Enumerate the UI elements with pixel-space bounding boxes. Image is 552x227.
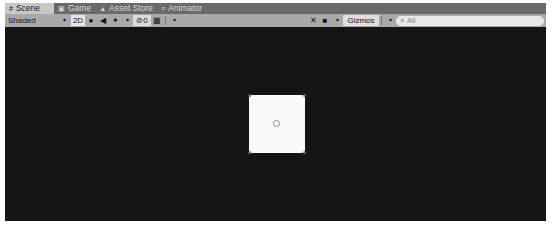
tab-scene-label: Scene bbox=[16, 3, 40, 14]
divider bbox=[381, 16, 382, 25]
speaker-icon: ◀ bbox=[100, 15, 106, 26]
scene-toolbar: Shaded ▾ 2D ● ◀ ✦ ▾ ⊘ 0 ▦ ▾ ✕ ■ ▾ Gizmos… bbox=[5, 14, 546, 27]
divider bbox=[165, 16, 166, 25]
lighting-toggle[interactable]: ● bbox=[85, 15, 97, 26]
hidden-objects-toggle[interactable]: ⊘ 0 bbox=[133, 15, 151, 26]
tab-animator[interactable]: ≡ Animator bbox=[157, 3, 206, 14]
animator-icon: ≡ bbox=[161, 3, 165, 14]
effects-toggle[interactable]: ✦ bbox=[109, 15, 121, 26]
bounds-handle[interactable] bbox=[248, 151, 251, 154]
chevron-down-icon: ▾ bbox=[173, 15, 176, 26]
tab-animator-label: Animator bbox=[168, 3, 202, 14]
draw-mode-label: Shaded bbox=[8, 15, 36, 26]
tab-scene[interactable]: # Scene bbox=[5, 3, 54, 14]
2d-mode-toggle[interactable]: 2D bbox=[71, 15, 85, 26]
tools-icon: ✕ bbox=[310, 15, 317, 26]
tools-button[interactable]: ✕ bbox=[307, 15, 319, 26]
pivot-handle-icon[interactable] bbox=[273, 120, 280, 127]
chevron-down-icon: ▾ bbox=[336, 15, 339, 26]
visibility-off-icon: ⊘ bbox=[136, 15, 143, 26]
game-icon: ▣ bbox=[58, 3, 65, 14]
search-placeholder: All bbox=[407, 16, 415, 25]
grid-icon: ▦ bbox=[153, 15, 161, 26]
bounds-handle[interactable] bbox=[248, 94, 251, 97]
camera-dropdown[interactable]: ▾ bbox=[331, 15, 343, 26]
draw-mode-dropdown[interactable]: Shaded ▾ bbox=[5, 15, 69, 26]
audio-toggle[interactable]: ◀ bbox=[97, 15, 109, 26]
camera-settings-button[interactable]: ■ bbox=[319, 15, 331, 26]
gizmos-button[interactable]: Gizmos bbox=[343, 15, 379, 26]
tab-game-label: Game bbox=[68, 3, 91, 14]
grid-dropdown[interactable]: ▾ bbox=[168, 15, 180, 26]
effects-dropdown[interactable]: ▾ bbox=[121, 15, 133, 26]
asset-store-icon: ▲ bbox=[99, 3, 106, 14]
hidden-count: 0 bbox=[143, 15, 147, 26]
light-bulb-icon: ● bbox=[89, 15, 94, 26]
scene-icon: # bbox=[9, 3, 13, 14]
bounds-handle[interactable] bbox=[303, 151, 306, 154]
chevron-down-icon: ▾ bbox=[126, 15, 129, 26]
effects-icon: ✦ bbox=[112, 15, 119, 26]
scene-window: # Scene ▣ Game ▲ Asset Store ≡ Animator … bbox=[5, 3, 546, 221]
chevron-down-icon: ▾ bbox=[389, 15, 392, 26]
search-input[interactable]: ⌕ All bbox=[396, 16, 544, 26]
search-icon: ⌕ bbox=[400, 16, 404, 26]
scene-viewport[interactable] bbox=[5, 27, 546, 221]
tab-bar: # Scene ▣ Game ▲ Asset Store ≡ Animator bbox=[5, 3, 546, 14]
bounds-handle[interactable] bbox=[303, 94, 306, 97]
sprite-object[interactable] bbox=[249, 95, 305, 153]
gizmos-dropdown[interactable]: ▾ bbox=[384, 15, 396, 26]
grid-toggle[interactable]: ▦ bbox=[151, 15, 163, 26]
tab-asset-store[interactable]: ▲ Asset Store bbox=[95, 3, 157, 14]
chevron-down-icon: ▾ bbox=[63, 15, 66, 26]
tab-asset-store-label: Asset Store bbox=[109, 3, 153, 14]
tab-game[interactable]: ▣ Game bbox=[54, 3, 95, 14]
camera-icon: ■ bbox=[323, 15, 328, 26]
